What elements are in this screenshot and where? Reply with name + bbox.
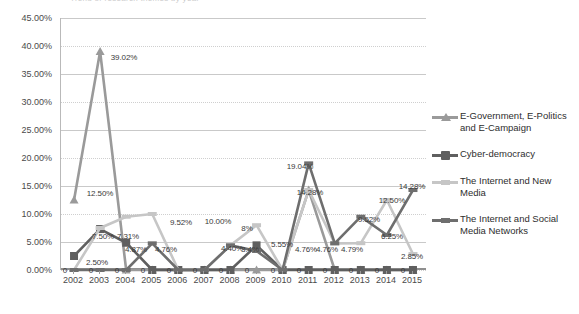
chart-container: Trend of research themes by year 0.00%5.… <box>0 0 579 314</box>
y-axis-tick-label: 45.00% <box>0 13 52 23</box>
x-axis-tick-label: 2007 <box>193 275 213 285</box>
x-axis-tick <box>229 271 230 274</box>
data-point-label: 0 <box>349 266 353 275</box>
x-axis-tick-label: 2015 <box>402 275 422 285</box>
data-point-label: 0 <box>245 266 249 275</box>
x-axis-tick <box>203 271 204 274</box>
x-axis-tick <box>99 271 100 274</box>
data-point-label: 0 <box>271 266 275 275</box>
series-marker <box>252 223 261 227</box>
legend-item-2[interactable]: Cyber-democracy <box>432 148 579 161</box>
legend-swatch-icon <box>432 176 458 188</box>
x-axis-tick-label: 2009 <box>246 275 266 285</box>
data-point-label: 14.28% <box>399 182 426 191</box>
data-point-label: 2.85% <box>401 252 423 261</box>
data-point-label: 4.76% <box>155 245 177 254</box>
series-marker <box>96 226 105 230</box>
data-point-label: 12.50% <box>379 196 406 205</box>
data-point-label: 9.52% <box>358 215 380 224</box>
y-axis-tick-label: 20.00% <box>0 153 52 163</box>
x-axis-tick <box>360 271 361 274</box>
data-point-label: 0 <box>141 266 145 275</box>
legend-label: E-Government, E-Politics and E-Campaign <box>458 110 579 134</box>
series-marker <box>70 252 78 260</box>
data-point-label: 4.79% <box>341 245 363 254</box>
x-axis-tick <box>125 271 126 274</box>
x-axis-tick <box>73 271 74 274</box>
x-axis-tick-label: 2003 <box>89 275 109 285</box>
data-point-label: 0 <box>401 266 405 275</box>
legend-item-4[interactable]: The Internet and Social Media Networks <box>432 213 579 237</box>
data-point-label: 0 <box>89 266 93 275</box>
data-point-label: 0 <box>297 266 301 275</box>
x-axis-tick-label: 2008 <box>219 275 239 285</box>
data-point-label: 4.76% <box>316 245 338 254</box>
series-marker <box>70 196 79 204</box>
x-axis-tick-label: 2013 <box>350 275 370 285</box>
data-point-label: 0 <box>167 266 171 275</box>
series-marker <box>122 215 131 219</box>
data-point-label: 0 <box>193 266 197 275</box>
y-axis-tick-label: 10.00% <box>0 209 52 219</box>
data-point-label: 0 <box>219 266 223 275</box>
legend-swatch-icon <box>432 214 458 226</box>
data-point-label: 0 <box>323 266 327 275</box>
data-point-label: 10.00% <box>205 217 232 226</box>
legend-item-1[interactable]: E-Government, E-Politics and E-Campaign <box>432 110 579 134</box>
data-point-label: 6.25% <box>381 232 403 241</box>
x-axis-tick-label: 2006 <box>167 275 187 285</box>
data-point-label: 7.50% <box>92 232 114 241</box>
data-point-label: 4.76% <box>295 245 317 254</box>
data-point-label: 39.02% <box>111 53 138 62</box>
x-axis-tick-label: 2011 <box>298 275 317 285</box>
x-axis-tick <box>151 271 152 274</box>
legend-label: Cyber-democracy <box>458 148 535 160</box>
y-axis-tick-label: 25.00% <box>0 125 52 135</box>
x-axis-tick-label: 2004 <box>115 275 135 285</box>
x-axis-tick <box>308 271 309 274</box>
x-axis-tick <box>386 271 387 274</box>
x-axis-tick <box>282 271 283 274</box>
y-axis-tick-label: 15.00% <box>0 181 52 191</box>
data-point-label: 0 <box>375 266 379 275</box>
data-point-label: 0 <box>63 266 67 275</box>
y-axis-tick-label: 40.00% <box>0 41 52 51</box>
data-point-label: 12.50% <box>87 189 114 198</box>
y-axis-tick-label: 30.00% <box>0 97 52 107</box>
x-axis-tick <box>412 271 413 274</box>
legend-label: The Internet and New Media <box>458 175 579 199</box>
chart-title-sliver: Trend of research themes by year <box>70 0 370 3</box>
data-point-label: 14.28% <box>297 188 324 197</box>
legend-item-3[interactable]: The Internet and New Media <box>432 175 579 199</box>
x-axis-tick-label: 2010 <box>272 275 292 285</box>
legend-label: The Internet and Social Media Networks <box>458 213 579 237</box>
data-point-label: 0 <box>115 266 119 275</box>
x-axis-tick-label: 2002 <box>63 275 83 285</box>
data-point-label: 19.04% <box>287 162 314 171</box>
x-axis-tick <box>177 271 178 274</box>
chart-legend: E-Government, E-Politics and E-CampaignC… <box>432 110 579 251</box>
data-point-label: 9.52% <box>170 218 192 227</box>
data-point-label: 3.4% <box>241 245 259 254</box>
x-axis-tick-label: 2005 <box>141 275 161 285</box>
data-point-label: 4.87% <box>125 245 147 254</box>
y-axis-tick-label: 35.00% <box>0 69 52 79</box>
series-marker <box>96 47 105 55</box>
x-axis-tick-label: 2012 <box>324 275 344 285</box>
data-point-label: 4.40% <box>221 244 243 253</box>
x-axis-tick <box>334 271 335 274</box>
x-axis-tick <box>256 271 257 274</box>
legend-swatch-icon <box>432 111 458 123</box>
x-axis-tick-label: 2014 <box>376 275 396 285</box>
data-point-label: 7.31% <box>117 232 139 241</box>
y-axis-tick-label: 0.00% <box>0 265 52 275</box>
series-marker <box>148 212 157 216</box>
data-point-label: 8% <box>241 224 252 233</box>
legend-swatch-icon <box>432 149 458 161</box>
data-point-label: 5.55% <box>271 240 293 249</box>
y-axis-tick-label: 5.00% <box>0 237 52 247</box>
